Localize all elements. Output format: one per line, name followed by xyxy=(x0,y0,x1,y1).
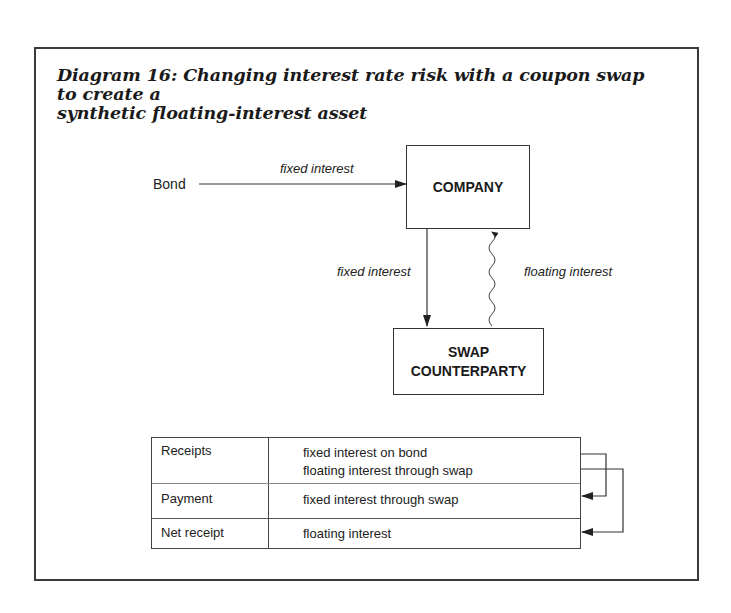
swap-label-line-2: COUNTERPARTY xyxy=(411,362,527,381)
row-value: floating interest through swap xyxy=(303,462,473,480)
company-to-swap-label: fixed interest xyxy=(337,264,411,279)
company-label: COMPANY xyxy=(433,178,504,197)
swap-counterparty-box: SWAP COUNTERPARTY xyxy=(393,328,544,395)
company-box: COMPANY xyxy=(406,145,530,229)
swap-to-company-label: floating interest xyxy=(524,264,612,279)
row-values: fixed interest through swap xyxy=(303,491,458,509)
row-value: fixed interest through swap xyxy=(303,491,458,509)
cashflow-table: Receipts fixed interest on bond floating… xyxy=(151,437,581,549)
column-divider xyxy=(268,438,269,548)
bond-label: Bond xyxy=(153,176,186,192)
bond-to-company-label: fixed interest xyxy=(280,161,354,176)
row-values: fixed interest on bond floating interest… xyxy=(303,444,473,480)
row-label: Payment xyxy=(161,491,212,506)
row-value: fixed interest on bond xyxy=(303,444,473,462)
swap-label-line-1: SWAP xyxy=(448,343,489,362)
row-label: Receipts xyxy=(161,443,212,458)
row-values: floating interest xyxy=(303,525,391,543)
row-label: Net receipt xyxy=(161,525,224,540)
receipts-to-payment-connector xyxy=(581,454,606,496)
swap-to-company-wavy-arrow xyxy=(489,232,495,326)
receipts-to-net-connector xyxy=(581,469,623,532)
row-value: floating interest xyxy=(303,525,391,543)
row-divider-2 xyxy=(152,518,580,519)
row-divider-1 xyxy=(152,483,580,484)
